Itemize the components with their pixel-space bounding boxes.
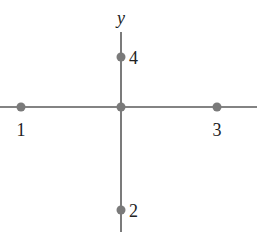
point-3 [213,103,222,112]
point-1-label: 1 [17,120,26,140]
point-2-label: 2 [129,201,138,221]
point-4 [117,53,126,62]
point-1 [17,103,26,112]
y-axis-label: y [115,8,125,28]
origin-point [117,103,126,112]
point-3-label: 3 [213,120,222,140]
point-4-label: 4 [129,48,138,68]
point-2 [117,206,126,215]
coordinate-diagram: y 1 2 3 4 [0,0,257,242]
